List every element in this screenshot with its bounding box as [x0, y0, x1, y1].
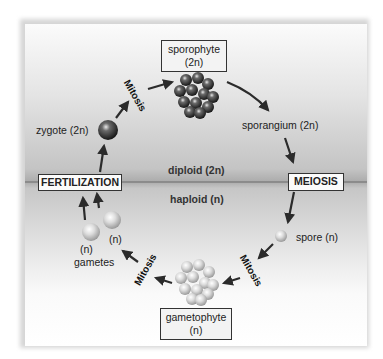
- sporophyte-label: sporophyte: [162, 43, 226, 56]
- arrow-gametophyte-to-mitosis: [156, 278, 172, 283]
- sporophyte-box: sporophyte (2n): [161, 40, 227, 72]
- haploid-region-label: haploid (n): [170, 193, 224, 205]
- diploid-region-label: diploid (2n): [168, 164, 225, 176]
- gametes-label: gametes: [74, 256, 114, 268]
- sporophyte-ploidy: (2n): [162, 56, 226, 69]
- sporangium-label: sporangium (2n): [242, 119, 318, 131]
- gamete-cell-2: [103, 211, 121, 229]
- gametophyte-ploidy: (n): [161, 324, 231, 337]
- gamete-cell-1: [82, 223, 100, 241]
- arrow-gamete2-to-fertilization: [97, 194, 99, 208]
- arrow-zygote-to-mitosis: [116, 102, 128, 118]
- arrow-spore-to-mitosis: [259, 244, 273, 258]
- gametophyte-label: gametophyte: [161, 311, 231, 324]
- fertilization-box: FERTILIZATION: [38, 174, 122, 191]
- gametophyte-box: gametophyte (n): [160, 308, 232, 340]
- sporophyte-cluster: [174, 72, 219, 119]
- gametophyte-cluster: [175, 259, 219, 306]
- arrow-meiosis-to-spore: [288, 192, 294, 222]
- spore-label: spore (n): [296, 231, 338, 243]
- spore-cell: [275, 230, 287, 242]
- arrow-sporophyte-to-sporangium: [227, 82, 268, 110]
- arrow-mitosis-to-gametophyte: [224, 278, 240, 283]
- gamete-ploidy-label-1: (n): [80, 243, 93, 255]
- arrow-mitosis-to-gametes: [123, 251, 138, 262]
- zygote-label: zygote (2n): [36, 124, 89, 136]
- arrow-gamete1-to-fertilization: [83, 198, 85, 220]
- gamete-ploidy-label-2: (n): [109, 233, 122, 245]
- zygote-cell: [98, 120, 118, 140]
- arrow-fertilization-to-zygote: [100, 146, 104, 172]
- arrow-mitosis-to-sporophyte: [148, 82, 172, 89]
- arrow-sporangium-to-meiosis: [285, 138, 293, 162]
- meiosis-box: MEIOSIS: [288, 173, 344, 191]
